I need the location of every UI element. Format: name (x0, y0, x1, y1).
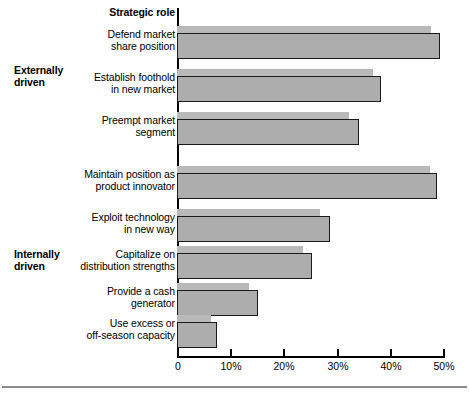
category-label-provide-a-cash-generator: Provide a cash generator (15, 285, 175, 309)
bar-front-5 (177, 253, 312, 279)
category-label-capitalize-on-distribution-strengths: Capitalize on distribution strengths (15, 248, 175, 272)
plot-area (177, 8, 463, 356)
x-tick-0 (177, 349, 179, 357)
x-tick-label-0: 0 (175, 360, 181, 372)
bar-front-0 (177, 33, 440, 59)
bar-front-2 (177, 119, 359, 145)
x-tick-label-4: 40% (380, 360, 401, 372)
bar-front-7 (177, 322, 217, 348)
category-label-exploit-technology-in-new-way: Exploit technology in new way (15, 211, 175, 235)
x-tick-4 (390, 349, 392, 357)
chart-axis-title: Strategic role (15, 6, 175, 18)
x-tick-2 (283, 349, 285, 357)
category-label-use-excess-or-off-season-capacity: Use excess or off-season capacity (15, 317, 175, 341)
category-label-maintain-position-as-product-innovator: Maintain position as product innovator (15, 168, 175, 192)
x-axis-line (177, 356, 445, 358)
x-tick-label-2: 20% (273, 360, 294, 372)
x-tick-5 (443, 349, 445, 357)
x-tick-3 (337, 349, 339, 357)
category-label-preempt-market-segment: Preempt market segment (15, 114, 175, 138)
bottom-divider-rule (2, 386, 467, 388)
category-label-establish-foothold-in-new-market: Establish foothold in new market (15, 71, 175, 95)
category-label-defend-market-share-position: Defend market share position (15, 28, 175, 52)
bar-front-6 (177, 290, 258, 316)
bar-front-3 (177, 173, 437, 199)
x-tick-label-1: 10% (220, 360, 241, 372)
bar-front-4 (177, 216, 330, 242)
bar-front-1 (177, 76, 381, 102)
horizontal-bar-chart: Strategic role Externally driven Interna… (0, 0, 469, 394)
x-tick-label-3: 30% (327, 360, 348, 372)
x-tick-label-5: 50% (433, 360, 454, 372)
x-tick-1 (230, 349, 232, 357)
